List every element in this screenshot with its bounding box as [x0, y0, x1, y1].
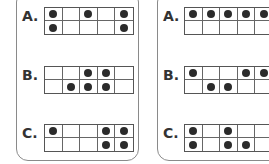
ten-frame-cell: [45, 21, 63, 34]
ten-frame-cell: [115, 21, 133, 34]
ten-frame-cell: [220, 21, 238, 34]
ten-frame-cell: [115, 138, 133, 151]
counter-dot-icon: [84, 83, 92, 91]
ten-frame-cell: [255, 67, 269, 80]
ten-frame-cell: [45, 80, 63, 93]
ten-frame-cell: [115, 8, 133, 21]
counter-dot-icon: [242, 69, 250, 77]
counter-dot-icon: [189, 127, 197, 135]
ten-frame-cell: [80, 67, 98, 80]
counter-dot-icon: [49, 127, 57, 135]
ten-frame-cell: [45, 8, 63, 21]
counter-dot-icon: [189, 141, 197, 149]
counter-dot-icon: [207, 83, 215, 91]
counter-dot-icon: [242, 141, 250, 149]
ten-frame-cell: [115, 125, 133, 138]
ten-frame-cell: [63, 80, 81, 93]
ten-frame-grid: [44, 124, 134, 152]
counter-dot-icon: [120, 141, 128, 149]
counter-dot-icon: [189, 69, 197, 77]
counter-dot-icon: [67, 83, 75, 91]
counter-dot-icon: [120, 10, 128, 18]
counter-dot-icon: [102, 127, 110, 135]
ten-frame-cell: [98, 67, 116, 80]
counter-dot-icon: [224, 127, 232, 135]
counter-dot-icon: [102, 141, 110, 149]
ten-frame-cell: [63, 21, 81, 34]
ten-frame-cell: [80, 21, 98, 34]
problem-label: C.: [163, 126, 179, 140]
problem-label: C.: [22, 126, 38, 140]
ten-frame-cell: [80, 8, 98, 21]
ten-frame-cell: [80, 125, 98, 138]
ten-frame-cell: [98, 21, 116, 34]
ten-frame-cell: [203, 125, 221, 138]
problem-label: A.: [163, 9, 179, 23]
ten-frame-cell: [63, 138, 81, 151]
ten-frame-cell: [238, 138, 256, 151]
counter-dot-icon: [260, 69, 268, 77]
ten-frame-cell: [203, 80, 221, 93]
ten-frame-grid: [44, 7, 134, 35]
counter-dot-icon: [49, 24, 57, 32]
counter-dot-icon: [224, 141, 232, 149]
ten-frame-cell: [238, 80, 256, 93]
counter-dot-icon: [224, 83, 232, 91]
ten-frame-cell: [220, 125, 238, 138]
counter-dot-icon: [120, 24, 128, 32]
ten-frame-cell: [115, 67, 133, 80]
ten-frame-cell: [255, 80, 269, 93]
ten-frame-grid: [184, 7, 269, 35]
ten-frame-cell: [45, 125, 63, 138]
ten-frame-cell: [220, 8, 238, 21]
counter-dot-icon: [207, 10, 215, 18]
ten-frame-cell: [238, 8, 256, 21]
ten-frame-cell: [185, 8, 203, 21]
counter-dot-icon: [84, 69, 92, 77]
ten-frame-cell: [255, 21, 269, 34]
ten-frame-cell: [185, 67, 203, 80]
ten-frame-cell: [185, 80, 203, 93]
counter-dot-icon: [260, 10, 268, 18]
ten-frame-cell: [80, 138, 98, 151]
ten-frame-cell: [255, 8, 269, 21]
ten-frame-cell: [203, 138, 221, 151]
ten-frame-cell: [255, 138, 269, 151]
ten-frame-cell: [63, 125, 81, 138]
ten-frame-cell: [98, 125, 116, 138]
ten-frame-cell: [80, 80, 98, 93]
ten-frame-grid: [184, 124, 269, 152]
counter-dot-icon: [102, 83, 110, 91]
ten-frame-cell: [203, 21, 221, 34]
ten-frame-cell: [203, 8, 221, 21]
counter-dot-icon: [49, 10, 57, 18]
ten-frame-cell: [220, 80, 238, 93]
ten-frame-cell: [45, 138, 63, 151]
ten-frame-cell: [220, 67, 238, 80]
counter-dot-icon: [102, 69, 110, 77]
ten-frame-cell: [220, 138, 238, 151]
ten-frame-cell: [238, 67, 256, 80]
ten-frame-cell: [185, 138, 203, 151]
ten-frame-cell: [63, 8, 81, 21]
ten-frame-cell: [63, 67, 81, 80]
counter-dot-icon: [224, 10, 232, 18]
ten-frame-cell: [255, 125, 269, 138]
ten-frame-cell: [98, 138, 116, 151]
ten-frame-cell: [45, 67, 63, 80]
counter-dot-icon: [242, 10, 250, 18]
counter-dot-icon: [189, 10, 197, 18]
problem-label: B.: [163, 68, 179, 82]
ten-frame-cell: [203, 67, 221, 80]
ten-frame-cell: [185, 125, 203, 138]
ten-frame-cell: [115, 80, 133, 93]
ten-frame-grid: [44, 66, 134, 94]
counter-dot-icon: [120, 127, 128, 135]
ten-frame-cell: [185, 21, 203, 34]
counter-dot-icon: [84, 10, 92, 18]
ten-frame-cell: [98, 8, 116, 21]
ten-frame-cell: [98, 80, 116, 93]
problem-label: B.: [22, 68, 38, 82]
ten-frame-cell: [238, 125, 256, 138]
problem-label: A.: [22, 9, 38, 23]
